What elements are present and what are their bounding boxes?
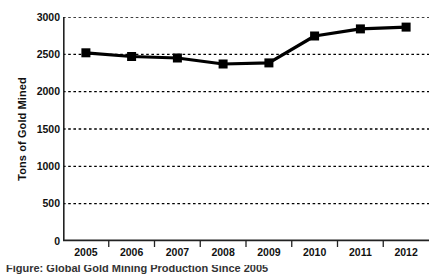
x-axis-tick-labels: 2005 2006 2007 2008 2009 2010 2011 2012 [63, 246, 429, 262]
y-tick-label: 2500 [22, 49, 60, 60]
data-point-markers [81, 23, 410, 69]
x-tick-label: 2012 [381, 246, 431, 259]
figure-caption-clipped: Figure: Global Gold Mining Production Si… [0, 265, 442, 274]
x-tick-label: 2010 [290, 246, 340, 259]
data-point-2005 [81, 48, 90, 57]
data-point-2008 [219, 60, 228, 69]
plot-area [63, 17, 429, 241]
figure-caption-text: Figure: Global Gold Mining Production Si… [6, 265, 268, 274]
x-tick-label: 2005 [61, 246, 111, 259]
y-tick-label: 0 [22, 236, 60, 247]
y-tick-label: 2000 [22, 86, 60, 97]
data-point-2012 [402, 23, 411, 32]
y-tick-label: 500 [22, 198, 60, 209]
y-tick-label: 1500 [22, 124, 60, 135]
y-tick-label: 3000 [22, 12, 60, 23]
x-tick-label: 2006 [107, 246, 157, 259]
data-point-2010 [310, 32, 319, 41]
x-tick-label: 2008 [198, 246, 248, 259]
plot-svg [63, 17, 435, 249]
x-tick-label: 2009 [244, 246, 294, 259]
data-point-2011 [356, 24, 365, 33]
y-axis-tick-labels: 3000 2500 2000 1500 1000 500 0 [22, 0, 60, 274]
gridlines [63, 17, 429, 204]
x-tick-label: 2011 [335, 246, 385, 259]
gold-mining-line-chart: Tons of Gold Mined 3000 2500 2000 1500 1… [0, 0, 442, 274]
data-point-2006 [127, 52, 136, 61]
data-point-2007 [173, 54, 182, 63]
y-tick-label: 1000 [22, 161, 60, 172]
data-point-2009 [264, 58, 273, 67]
x-tick-label: 2007 [152, 246, 202, 259]
